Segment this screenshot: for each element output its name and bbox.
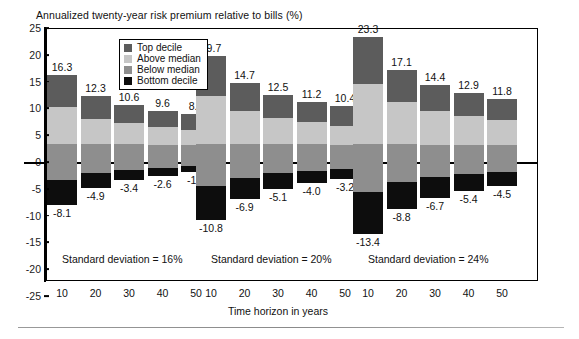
y-tick-label: 5 bbox=[35, 129, 41, 141]
x-tick-label: 50 bbox=[485, 287, 519, 299]
y-tick-label: -20 bbox=[26, 263, 41, 275]
legend-swatch-bottom-decile bbox=[124, 77, 132, 85]
x-tick-label: 10 bbox=[194, 287, 228, 299]
segment-above-median bbox=[81, 119, 111, 144]
legend-label-above-median: Above median bbox=[137, 54, 201, 64]
segment-above-median bbox=[387, 102, 417, 144]
segment-top-decile bbox=[148, 111, 178, 128]
x-tick-label: 20 bbox=[385, 287, 419, 299]
segment-above-median bbox=[420, 111, 450, 145]
segment-above-median bbox=[47, 107, 77, 143]
x-tick-label: 30 bbox=[261, 287, 295, 299]
y-tick-label: 10 bbox=[29, 102, 41, 114]
segment-above-median bbox=[487, 120, 517, 145]
legend-item-below-median: Below median bbox=[124, 64, 201, 75]
segment-top-decile bbox=[487, 99, 517, 120]
y-tick-label: 20 bbox=[29, 49, 41, 61]
legend: Top decile Above median Below median Bot… bbox=[119, 39, 208, 90]
page-title: Annualized twenty-year risk premium rela… bbox=[36, 9, 303, 21]
segment-above-median bbox=[263, 118, 293, 145]
x-tick-label: 40 bbox=[452, 287, 486, 299]
x-tick-label: 30 bbox=[418, 287, 452, 299]
chart-figure: Annualized twenty-year risk premium rela… bbox=[0, 0, 579, 339]
legend-swatch-top-decile bbox=[124, 44, 132, 52]
y-tick-mark bbox=[44, 134, 49, 136]
y-tick-mark bbox=[44, 27, 49, 29]
group-annotation: Standard deviation = 20% bbox=[211, 253, 332, 265]
segment-bottom-decile bbox=[487, 172, 517, 186]
y-tick-mark bbox=[44, 188, 49, 190]
x-tick-label: 20 bbox=[228, 287, 262, 299]
y-tick-mark bbox=[44, 295, 49, 297]
bar-stack bbox=[487, 28, 517, 281]
bar-stack bbox=[420, 28, 450, 281]
x-tick-label: 30 bbox=[112, 287, 146, 299]
segment-above-median bbox=[353, 84, 383, 145]
legend-item-top-decile: Top decile bbox=[124, 42, 201, 53]
legend-item-above-median: Above median bbox=[124, 53, 201, 64]
bar-value-label-top: 11.8 bbox=[476, 85, 528, 97]
y-tick-mark bbox=[44, 161, 49, 163]
y-tick-mark bbox=[44, 107, 49, 109]
segment-top-decile bbox=[297, 102, 327, 122]
x-tick-label: 20 bbox=[79, 287, 113, 299]
y-tick-label: 15 bbox=[29, 76, 41, 88]
legend-label-below-median: Below median bbox=[137, 65, 200, 75]
group-annotation: Standard deviation = 16% bbox=[62, 253, 183, 265]
y-tick-mark bbox=[44, 241, 49, 243]
x-tick-label: 40 bbox=[146, 287, 180, 299]
bar-stack bbox=[230, 28, 260, 281]
segment-above-median bbox=[297, 122, 327, 145]
footer-divider bbox=[18, 327, 564, 328]
group-annotation: Standard deviation = 24% bbox=[368, 253, 489, 265]
legend-swatch-below-median bbox=[124, 66, 132, 74]
segment-above-median bbox=[454, 116, 484, 144]
x-tick-label: 40 bbox=[295, 287, 329, 299]
segment-above-median bbox=[114, 123, 144, 144]
y-tick-mark bbox=[44, 268, 49, 270]
legend-swatch-above-median bbox=[124, 55, 132, 63]
y-tick-mark bbox=[44, 215, 49, 217]
segment-above-median bbox=[148, 127, 178, 145]
y-tick-mark bbox=[44, 81, 49, 83]
segment-above-median bbox=[230, 111, 260, 144]
y-tick-label: -15 bbox=[26, 236, 41, 248]
y-tick-label: -25 bbox=[26, 290, 41, 302]
segment-above-median bbox=[196, 96, 226, 144]
bar-stack bbox=[81, 28, 111, 281]
x-axis-label: Time horizon in years bbox=[228, 305, 328, 317]
legend-label-bottom-decile: Bottom decile bbox=[137, 76, 198, 86]
x-tick-label: 10 bbox=[45, 287, 79, 299]
y-tick-label: -5 bbox=[32, 183, 41, 195]
legend-label-top-decile: Top decile bbox=[137, 43, 182, 53]
y-tick-mark bbox=[44, 54, 49, 56]
bar-stack bbox=[297, 28, 327, 281]
bar-stack bbox=[263, 28, 293, 281]
y-tick-label: 25 bbox=[29, 22, 41, 34]
y-axis-ticks: 2520151050-5-10-15-20-25 bbox=[0, 0, 41, 339]
bar-value-label-bottom: -4.5 bbox=[476, 188, 528, 200]
bar-stack bbox=[454, 28, 484, 281]
legend-item-bottom-decile: Bottom decile bbox=[124, 75, 201, 86]
x-tick-label: 10 bbox=[351, 287, 385, 299]
